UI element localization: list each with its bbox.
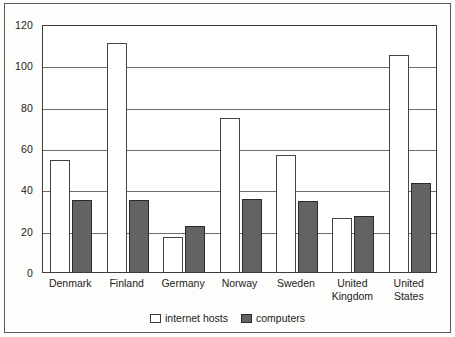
plot-area (42, 25, 437, 273)
gridline-100 (43, 67, 436, 68)
y-tick-120: 120 (15, 19, 33, 31)
y-tick-100: 100 (15, 60, 33, 72)
bar-sweden-internet-hosts (276, 155, 296, 272)
legend-label-computers: computers (256, 312, 305, 324)
bar-united-kingdom-computers (354, 216, 374, 272)
bar-sweden-computers (298, 201, 318, 272)
y-tick-0: 0 (27, 267, 33, 279)
bar-chart-figure: 020406080100120 DenmarkFinlandGermanyNor… (0, 0, 455, 337)
chart-legend: internet hosts computers (0, 312, 455, 324)
x-axis-category-labels: DenmarkFinlandGermanyNorwaySwedenUnited … (42, 277, 437, 317)
legend-label-internet-hosts: internet hosts (165, 312, 228, 324)
x-label-united-states: United States (381, 277, 437, 302)
bar-germany-computers (185, 226, 205, 273)
legend-item-internet-hosts: internet hosts (150, 312, 228, 324)
legend-item-computers: computers (241, 312, 305, 324)
gridline-40 (43, 191, 436, 192)
bar-united-kingdom-internet-hosts (332, 218, 352, 272)
y-tick-60: 60 (21, 143, 33, 155)
bar-united-states-computers (411, 183, 431, 272)
y-tick-40: 40 (21, 184, 33, 196)
gridline-20 (43, 233, 436, 234)
bar-united-states-internet-hosts (389, 55, 409, 272)
bar-denmark-computers (72, 200, 92, 272)
bar-finland-internet-hosts (107, 43, 127, 272)
x-label-denmark: Denmark (42, 277, 98, 290)
x-label-united-kingdom: United Kingdom (324, 277, 380, 302)
bar-norway-computers (242, 199, 262, 272)
bar-denmark-internet-hosts (50, 160, 70, 272)
gridline-80 (43, 109, 436, 110)
x-label-finland: Finland (98, 277, 154, 290)
y-tick-80: 80 (21, 102, 33, 114)
bar-germany-internet-hosts (163, 237, 183, 272)
x-label-germany: Germany (155, 277, 211, 290)
y-tick-20: 20 (21, 226, 33, 238)
y-axis-tick-labels: 020406080100120 (0, 25, 37, 273)
x-label-norway: Norway (211, 277, 267, 290)
legend-swatch-internet-hosts (150, 314, 161, 323)
x-label-sweden: Sweden (268, 277, 324, 290)
bar-norway-internet-hosts (220, 118, 240, 272)
legend-swatch-computers (241, 314, 252, 323)
gridline-60 (43, 150, 436, 151)
bar-finland-computers (129, 200, 149, 272)
